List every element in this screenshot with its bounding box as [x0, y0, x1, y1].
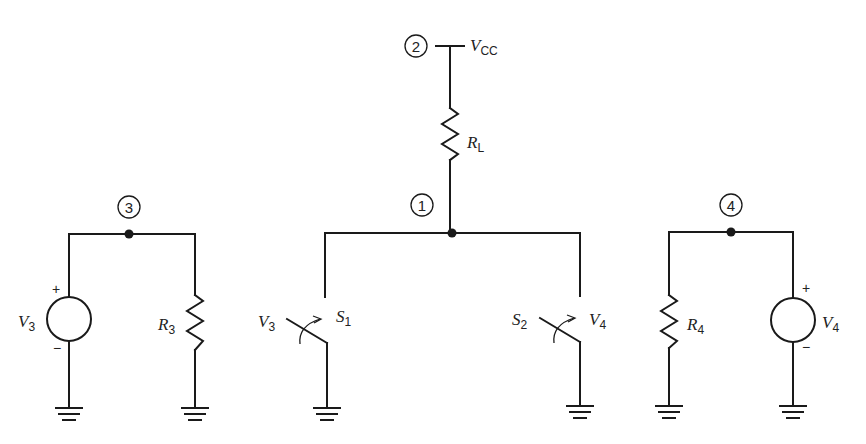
svg-text:+: +: [802, 280, 810, 296]
svg-text:V3: V3: [258, 312, 275, 334]
junction-dot: [125, 230, 134, 239]
node-4-marker: 4: [720, 194, 742, 216]
supply-vcc: VCC: [436, 36, 498, 108]
svg-text:V4: V4: [589, 310, 606, 332]
node-3-marker: 3: [118, 196, 140, 218]
circuit-diagram: VCC 2 RL 1 V3 S1 S2 V4: [0, 0, 866, 444]
junction-dot: [727, 228, 736, 237]
node-1-bus: [325, 229, 580, 298]
svg-text:2: 2: [412, 38, 420, 55]
load-resistor-rl: RL: [442, 108, 484, 233]
svg-text:V4: V4: [822, 313, 839, 335]
svg-text:V3: V3: [18, 312, 35, 334]
svg-text:R3: R3: [157, 315, 175, 337]
switch-s1: V3 S1: [258, 307, 352, 420]
svg-text:VCC: VCC: [470, 36, 498, 58]
svg-text:+: +: [52, 281, 60, 297]
svg-text:4: 4: [727, 197, 735, 214]
svg-text:S2: S2: [512, 310, 528, 332]
switch-s2: S2 V4: [512, 310, 606, 418]
resistor-r3: R3: [157, 295, 208, 420]
resistor-r4: R4: [656, 295, 704, 418]
node-3-bus: [69, 230, 195, 298]
voltage-source-v3: + − V3: [18, 281, 91, 420]
voltage-source-v4: + − V4: [771, 280, 839, 418]
svg-text:S1: S1: [336, 307, 352, 329]
svg-text:−: −: [802, 339, 810, 355]
svg-text:3: 3: [125, 199, 133, 216]
node-4-bus: [669, 228, 793, 299]
svg-text:1: 1: [418, 197, 426, 214]
node-2-marker: 2: [405, 35, 427, 57]
svg-text:RL: RL: [466, 133, 484, 155]
svg-text:−: −: [53, 340, 61, 356]
svg-text:R4: R4: [686, 315, 704, 337]
junction-dot: [448, 229, 457, 238]
node-1-marker: 1: [411, 194, 433, 216]
